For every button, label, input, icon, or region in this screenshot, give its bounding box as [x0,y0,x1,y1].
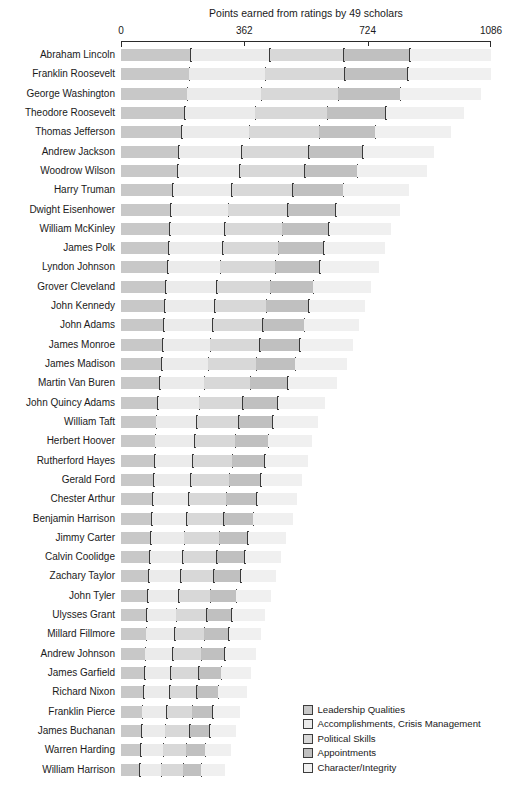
stacked-bar [121,358,347,370]
bar-segment-political-skills [161,764,183,776]
chart-row: Dwight Eisenhower [0,203,515,222]
bar-segment-political-skills [187,513,223,525]
bar-segment-accomplishments-crisis-management [149,570,181,582]
axis-cap-1086 [490,41,491,47]
bar-segment-character-integrity [300,339,353,351]
bar-segment-character-integrity [257,493,298,505]
bar-segment-appointments [344,49,410,61]
stacked-bar [121,686,247,698]
row-label-warren-harding: Warren Harding [0,743,115,756]
bar-segment-leadership-qualities [121,667,145,679]
bar-segment-character-integrity [386,107,464,119]
bar-segment-character-integrity [232,609,265,621]
stacked-bar [121,551,281,563]
bar-segment-leadership-qualities [121,184,173,196]
chart-row: Andrew Johnson [0,647,515,666]
stacked-bar [121,184,409,196]
bar-segment-political-skills [240,165,305,177]
bar-segment-accomplishments-crisis-management [148,590,179,602]
bar-segment-character-integrity [410,49,491,61]
bar-rows: Abraham LincolnFranklin RooseveltGeorge … [0,48,515,782]
bar-segment-accomplishments-crisis-management [140,764,161,776]
bar-segment-political-skills [191,474,229,486]
bar-segment-leadership-qualities [121,397,158,409]
bar-segment-appointments [293,184,343,196]
chart-row: Abraham Lincoln [0,48,515,67]
bar-segment-accomplishments-crisis-management [145,667,172,679]
bar-segment-appointments [305,165,358,177]
stacked-bar [121,667,251,679]
bar-segment-political-skills [165,725,190,737]
bar-segment-accomplishments-crisis-management [162,358,208,370]
row-label-theodore-roosevelt: Theodore Roosevelt [0,106,115,119]
bar-segment-accomplishments-crisis-management [152,513,187,525]
row-label-calvin-coolidge: Calvin Coolidge [0,550,115,563]
row-label-william-mckinley: William McKinley [0,222,115,235]
row-label-rutherford-hayes: Rutherford Hayes [0,454,115,467]
bar-segment-appointments [224,513,254,525]
legend-item-appointments[interactable]: Appointments [303,746,481,760]
bar-segment-appointments [235,435,268,447]
legend-swatch-icon [303,719,313,729]
bar-segment-leadership-qualities [121,107,185,119]
stacked-bar [121,397,325,409]
bar-segment-appointments [282,223,329,235]
bar-segment-character-integrity [329,223,391,235]
bar-segment-accomplishments-crisis-management [145,648,173,660]
stacked-bar [121,590,271,602]
bar-segment-political-skills [232,184,293,196]
stacked-bar [121,223,391,235]
bar-segment-appointments [229,474,260,486]
stacked-bar [121,513,293,525]
bar-segment-leadership-qualities [121,493,153,505]
chart-row: Chester Arthur [0,492,515,511]
bar-segment-political-skills [170,686,197,698]
bar-segment-leadership-qualities [121,725,142,737]
bar-segment-appointments [219,532,248,544]
legend-item-political-skills[interactable]: Political Skills [303,732,481,746]
bar-segment-accomplishments-crisis-management [160,377,204,389]
bar-segment-accomplishments-crisis-management [171,204,228,216]
bar-segment-political-skills [217,281,270,293]
chart-row: John Adams [0,318,515,337]
chart-row: William Taft [0,415,515,434]
row-label-john-tyler: John Tyler [0,589,115,602]
chart-row: Ulysses Grant [0,608,515,627]
bar-segment-character-integrity [248,532,286,544]
bar-segment-leadership-qualities [121,339,163,351]
bar-segment-leadership-qualities [121,513,152,525]
bar-segment-character-integrity [304,319,359,331]
bar-segment-accomplishments-crisis-management [179,146,242,158]
bar-segment-political-skills [210,339,259,351]
bar-segment-accomplishments-crisis-management [147,609,176,621]
bar-segment-character-integrity [241,570,277,582]
row-label-franklin-roosevelt: Franklin Roosevelt [0,67,115,80]
legend-swatch-icon [303,763,313,773]
bar-segment-appointments [309,146,363,158]
bar-segment-appointments [217,551,245,563]
bar-segment-appointments [345,68,408,80]
bar-segment-accomplishments-crisis-management [185,107,255,119]
legend-item-leadership-qualities[interactable]: Leadership Qualities [303,703,481,717]
bar-segment-leadership-qualities [121,435,155,447]
bar-segment-appointments [263,319,304,331]
bar-segment-character-integrity [375,126,450,138]
bar-segment-character-integrity [218,686,247,698]
bar-segment-character-integrity [313,281,371,293]
chart-row: James Polk [0,241,515,260]
chart-row: Martin Van Buren [0,376,515,395]
row-label-franklin-pierce: Franklin Pierce [0,705,115,718]
bar-segment-appointments [186,744,205,756]
bar-segment-appointments [250,377,287,389]
chart-row: James Madison [0,357,515,376]
row-label-millard-fillmore: Millard Fillmore [0,627,115,640]
legend-item-character-integrity[interactable]: Character/Integrity [303,761,481,775]
bar-segment-appointments [275,261,320,273]
chart-row: Thomas Jefferson [0,125,515,144]
legend-item-accomplishments-crisis-management[interactable]: Accomplishments, Crisis Management [303,717,481,731]
stacked-bar [121,474,302,486]
bar-segment-leadership-qualities [121,764,140,776]
bar-segment-appointments [319,126,375,138]
bar-segment-character-integrity [343,184,409,196]
bar-segment-accomplishments-crisis-management [141,744,163,756]
